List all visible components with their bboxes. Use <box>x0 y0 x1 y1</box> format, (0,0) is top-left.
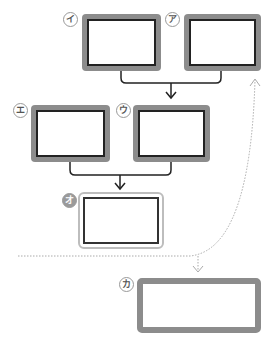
label-e: エ <box>13 103 28 118</box>
label-ka: カ <box>119 277 134 292</box>
box-u <box>133 105 210 162</box>
label-i: イ <box>63 12 78 27</box>
box-e <box>31 105 110 162</box>
box-o <box>78 192 164 249</box>
label-a: ア <box>165 12 180 27</box>
box-i <box>82 14 161 71</box>
label-u: ウ <box>116 103 131 118</box>
label-o: オ <box>62 193 77 208</box>
box-ka <box>137 278 261 333</box>
box-a <box>184 14 261 71</box>
